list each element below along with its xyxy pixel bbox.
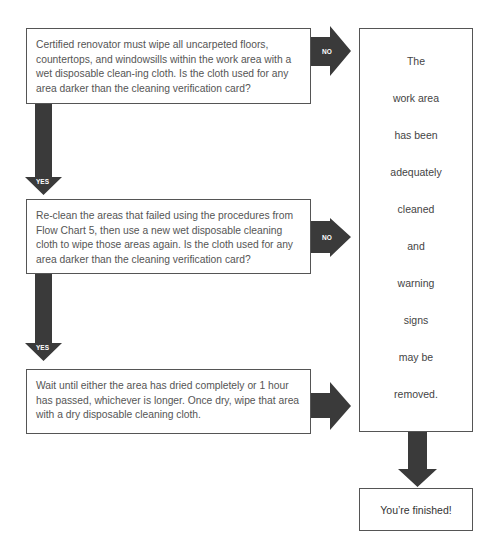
result-line: cleaned (360, 203, 472, 215)
yes-arrow-2: YES (25, 273, 62, 361)
result-line: removed. (360, 388, 472, 400)
step-box-3: Wait until either the area has dried com… (26, 369, 311, 434)
result-line: adequately (360, 166, 472, 178)
no-arrow-2: NO (310, 218, 351, 257)
result-line: warning (360, 277, 472, 289)
finish-text: You’re finished! (380, 504, 451, 516)
step-box-2: Re-clean the areas that failed using the… (26, 199, 311, 274)
down-arrow-finish (398, 431, 437, 487)
step-3-text: Wait until either the area has dried com… (36, 379, 301, 423)
result-line: work area (360, 92, 472, 104)
result-line: may be (360, 351, 472, 363)
finish-box: You’re finished! (359, 488, 473, 531)
svg-text:YES: YES (36, 178, 50, 185)
result-box: The work area has been adequately cleane… (359, 28, 473, 432)
result-line: and (360, 240, 472, 252)
svg-text:YES: YES (36, 344, 50, 351)
result-line: The (360, 55, 472, 67)
step-1-text: Certified renovator must wipe all uncarp… (36, 38, 301, 96)
svg-text:NO: NO (322, 234, 332, 241)
step-2-text: Re-clean the areas that failed using the… (36, 209, 301, 267)
result-line: has been (360, 129, 472, 141)
yes-arrow-1: YES (25, 103, 62, 195)
no-arrow-1: NO (310, 26, 351, 76)
arrow-3 (310, 382, 351, 430)
result-line: signs (360, 314, 472, 326)
svg-text:NO: NO (322, 48, 332, 55)
step-box-1: Certified renovator must wipe all uncarp… (26, 28, 311, 104)
